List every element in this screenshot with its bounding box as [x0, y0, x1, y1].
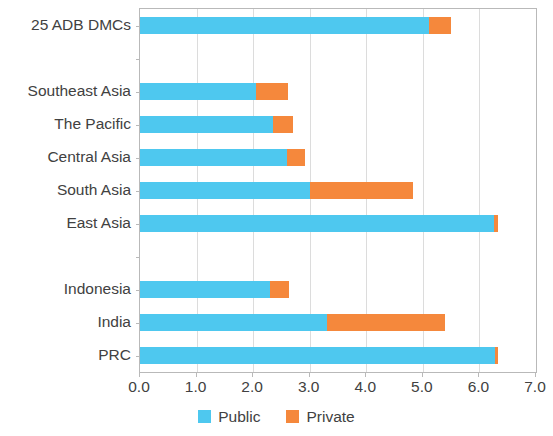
x-axis-label: 1.0 — [166, 378, 226, 396]
bar-segment-public — [140, 116, 273, 133]
bar-row — [140, 314, 536, 331]
x-axis-label: 4.0 — [335, 378, 395, 396]
bar-segment-private — [310, 182, 413, 199]
y-axis-label: Southeast Asia — [0, 82, 131, 100]
y-axis-label: Indonesia — [0, 280, 131, 298]
x-axis-tick — [252, 372, 253, 377]
y-axis-tick — [136, 257, 140, 258]
bar-segment-private — [495, 347, 498, 364]
bar-segment-private — [327, 314, 445, 331]
bar-segment-public — [140, 83, 256, 100]
bar-row — [140, 116, 536, 133]
plot-area — [139, 8, 537, 373]
x-axis-label: 6.0 — [448, 378, 508, 396]
x-axis-label: 5.0 — [392, 378, 452, 396]
legend-swatch-icon — [198, 410, 211, 423]
legend-item[interactable]: Private — [286, 409, 354, 425]
x-axis-tick — [422, 372, 423, 377]
bar-segment-public — [140, 347, 495, 364]
x-axis-tick — [309, 372, 310, 377]
bar-row — [140, 17, 536, 34]
x-axis-label: 2.0 — [222, 378, 282, 396]
bar-segment-private — [270, 281, 289, 298]
bar-segment-public — [140, 314, 327, 331]
bar-row — [140, 347, 536, 364]
bar-row — [140, 149, 536, 166]
x-axis-tick — [478, 372, 479, 377]
bar-segment-private — [429, 17, 452, 34]
y-axis-label: South Asia — [0, 181, 131, 199]
stacked-bar-chart: 25 ADB DMCsSoutheast AsiaThe PacificCent… — [0, 0, 553, 436]
bar-segment-public — [140, 17, 429, 34]
x-axis-tick — [535, 372, 536, 377]
x-axis-tick — [196, 372, 197, 377]
bar-segment-private — [287, 149, 305, 166]
x-axis-label: 3.0 — [279, 378, 339, 396]
x-axis-label: 0.0 — [109, 378, 169, 396]
bar-row — [140, 281, 536, 298]
y-axis-label: PRC — [0, 346, 131, 364]
bar-segment-private — [494, 215, 499, 232]
bar-row — [140, 215, 536, 232]
legend-swatch-icon — [286, 410, 299, 423]
x-axis-tick — [139, 372, 140, 377]
bar-segment-private — [273, 116, 293, 133]
chart-legend: PublicPrivate — [0, 409, 553, 425]
bar-segment-public — [140, 149, 287, 166]
y-axis-label: 25 ADB DMCs — [0, 16, 131, 34]
bar-segment-public — [140, 281, 270, 298]
y-axis-tick — [136, 59, 140, 60]
x-axis-tick — [365, 372, 366, 377]
bar-segment-private — [256, 83, 288, 100]
y-axis-label: The Pacific — [0, 115, 131, 133]
bar-segment-public — [140, 215, 494, 232]
y-axis-label: East Asia — [0, 214, 131, 232]
bar-row — [140, 182, 536, 199]
y-axis-label: Central Asia — [0, 148, 131, 166]
legend-item[interactable]: Public — [198, 409, 260, 425]
x-axis-label: 7.0 — [505, 378, 553, 396]
bar-segment-public — [140, 182, 310, 199]
y-axis-label: India — [0, 313, 131, 331]
bar-row — [140, 83, 536, 100]
legend-label: Private — [306, 409, 354, 425]
legend-label: Public — [218, 409, 260, 425]
